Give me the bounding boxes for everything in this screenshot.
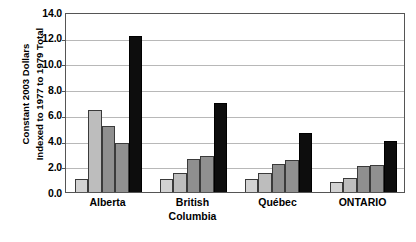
bar: [343, 178, 357, 192]
bar: [115, 143, 129, 192]
bar: [102, 126, 116, 192]
plot-area: [65, 13, 405, 193]
y-axis-tick-label: 12.0: [22, 33, 62, 44]
bars-layer: [66, 14, 404, 192]
bar-group: [75, 14, 143, 192]
y-axis-tick-label: 6.0: [22, 110, 62, 121]
bar: [88, 110, 102, 192]
bar: [357, 166, 371, 192]
x-axis-tick-label-line: ONTARIO: [313, 196, 413, 210]
bar: [330, 182, 344, 192]
bar: [200, 156, 214, 192]
bar: [173, 173, 187, 192]
y-axis-tick-label: 14.0: [22, 8, 62, 19]
y-axis-tick-labels: 14.012.010.08.06.04.02.00.0: [22, 0, 62, 242]
bar: [272, 164, 286, 192]
bar: [245, 179, 259, 192]
x-axis-tick-label-line: Columbia: [143, 210, 243, 224]
bar: [299, 133, 313, 192]
bar-group: [330, 14, 398, 192]
bar-chart: Constant 2003 Dollars Indexed to 1977 to…: [0, 0, 416, 242]
bar: [384, 141, 398, 192]
y-axis-tick-label: 10.0: [22, 59, 62, 70]
bar: [285, 160, 299, 192]
bar: [214, 103, 228, 192]
x-axis-tick-label: ONTARIO: [313, 196, 413, 210]
y-axis-tick-label: 8.0: [22, 85, 62, 96]
y-axis-tick-label: 2.0: [22, 162, 62, 173]
x-axis-tick-labels: AlbertaBritishColumbiaQuébecONTARIO: [65, 196, 405, 242]
bar-group: [245, 14, 313, 192]
bar: [258, 173, 272, 192]
bar: [75, 179, 89, 192]
bar: [129, 36, 143, 192]
bar: [370, 165, 384, 192]
bar: [187, 159, 201, 192]
bar: [160, 179, 174, 192]
y-axis-tick-label: 0.0: [22, 188, 62, 199]
bar-group: [160, 14, 228, 192]
y-axis-tick-label: 4.0: [22, 136, 62, 147]
